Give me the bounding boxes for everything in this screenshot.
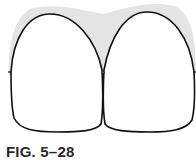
figure-caption: FIG. 5–28 (6, 143, 75, 160)
teeth-diagram (0, 0, 196, 140)
